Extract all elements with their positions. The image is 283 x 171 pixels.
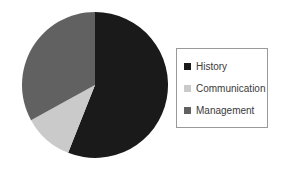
legend-item-communication[interactable]: Communication — [184, 82, 265, 94]
pie-chart-figure: History Communication Management — [0, 0, 283, 171]
legend-label-history: History — [196, 61, 227, 72]
legend-item-management[interactable]: Management — [184, 104, 254, 116]
legend-swatch-communication — [184, 85, 191, 92]
legend-label-communication: Communication — [196, 83, 265, 94]
legend: History Communication Management — [176, 48, 268, 128]
legend-swatch-management — [184, 107, 191, 114]
legend-item-history[interactable]: History — [184, 60, 227, 72]
pie-slices — [22, 12, 168, 158]
legend-swatch-history — [184, 63, 191, 70]
legend-label-management: Management — [196, 105, 254, 116]
